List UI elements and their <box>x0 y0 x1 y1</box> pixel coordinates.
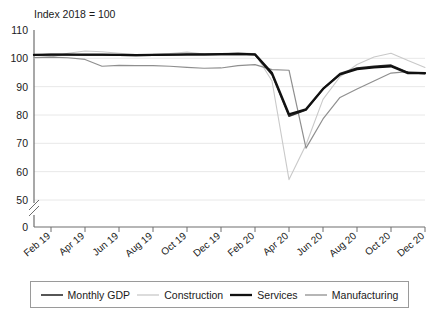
x-axis-tick-label: Dec 20 <box>395 230 427 259</box>
y-axis-tick-label: 50 <box>16 194 28 206</box>
x-axis-tick-label: Jun 19 <box>90 230 120 258</box>
legend-label-monthly-gdp: Monthly GDP <box>68 289 130 301</box>
x-axis-tick-label: Apr 20 <box>261 230 291 258</box>
axis-break-mark <box>29 206 39 216</box>
legend-item-services: Services <box>230 289 297 301</box>
x-axis-tick-label: Feb 20 <box>225 230 256 259</box>
x-axis-tick-label: Oct 20 <box>363 230 393 258</box>
legend-swatch-manufacturing <box>305 291 327 299</box>
line-chart-plot: 50607080901001100Feb 19Apr 19Jun 19Aug 1… <box>0 0 441 280</box>
chart-title: Index 2018 = 100 <box>34 8 115 20</box>
legend-item-manufacturing: Manufacturing <box>305 289 399 301</box>
x-axis-tick-label: Dec 19 <box>191 230 223 259</box>
series-line-manufacturing <box>34 57 425 148</box>
x-axis-tick-label: Aug 19 <box>123 230 155 259</box>
y-axis-tick-label: 80 <box>16 109 28 121</box>
x-axis-tick-label: Aug 20 <box>327 230 359 259</box>
chart-container: Index 2018 = 100 50607080901001100Feb 19… <box>0 0 441 322</box>
legend-label-manufacturing: Manufacturing <box>332 289 399 301</box>
y-axis-tick-label: 60 <box>16 166 28 178</box>
y-axis-tick-label: 100 <box>10 52 28 64</box>
x-axis-tick-label: Apr 19 <box>57 230 87 258</box>
y-axis-tick-label: 70 <box>16 137 28 149</box>
legend-label-construction: Construction <box>164 289 223 301</box>
legend-swatch-services <box>230 291 252 299</box>
legend-item-construction: Construction <box>137 289 223 301</box>
y-axis-tick-label-zero: 0 <box>22 221 28 233</box>
legend-label-services: Services <box>257 289 297 301</box>
legend-swatch-construction <box>137 291 159 299</box>
x-axis-tick-label: Oct 19 <box>159 230 189 258</box>
legend-swatch-monthly-gdp <box>41 291 63 299</box>
x-axis-tick-label: Jun 20 <box>294 230 324 258</box>
legend-item-monthly-gdp: Monthly GDP <box>41 289 130 301</box>
y-axis-tick-label: 110 <box>11 24 28 36</box>
y-axis-tick-label: 90 <box>16 81 28 93</box>
chart-legend: Monthly GDP Construction Services Manufa… <box>30 281 409 308</box>
x-axis-tick-label: Feb 19 <box>21 230 52 259</box>
